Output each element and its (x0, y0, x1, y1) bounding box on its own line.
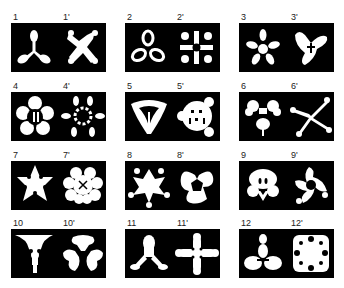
shape-panel (11, 229, 106, 278)
shape-transformed (59, 92, 106, 141)
shape-panel (239, 23, 334, 72)
shape-panel (125, 92, 220, 141)
pair-label-prime: 3' (291, 12, 298, 22)
pair-label-prime: 10' (63, 218, 75, 228)
shape-transformed (287, 92, 334, 141)
shape-original (11, 23, 58, 72)
shape-panel (239, 92, 334, 141)
shape-original (125, 161, 172, 210)
shape-transformed (59, 23, 106, 72)
shape-original (125, 92, 172, 141)
pair-label-prime: 1' (63, 12, 70, 22)
shape-transformed (173, 92, 220, 141)
pair-label-prime: 2' (177, 12, 184, 22)
figure-pair-7: 7 7' (11, 150, 106, 210)
pair-label: 8 (127, 150, 132, 160)
pair-label: 4 (13, 81, 18, 91)
pair-label: 11 (127, 218, 136, 228)
shape-original (11, 229, 58, 278)
pair-label-prime: 8' (177, 150, 184, 160)
figure-pair-4: 4 4' (11, 81, 106, 141)
shape-original (11, 92, 58, 141)
shape-panel (11, 92, 106, 141)
shape-transformed (287, 23, 334, 72)
shape-transformed (173, 161, 220, 210)
pair-label: 10 (13, 218, 23, 228)
pair-label: 5 (127, 81, 132, 91)
pair-label-prime: 7' (63, 150, 70, 160)
shape-panel (11, 161, 106, 210)
figure-pair-8: 8 8' (125, 150, 220, 210)
shape-panel (125, 161, 220, 210)
shape-panel (239, 161, 334, 210)
figure-pair-12: 12 12' (239, 218, 334, 278)
pair-label-prime: 9' (291, 150, 298, 160)
shape-original (239, 161, 286, 210)
figure-pair-5: 5 5' (125, 81, 220, 141)
shape-panel (239, 229, 334, 278)
shape-panel (125, 23, 220, 72)
shape-original (239, 229, 286, 278)
pair-label: 6 (241, 81, 246, 91)
figure-pair-11: 11 11' (125, 218, 220, 278)
shape-transformed (287, 229, 334, 278)
pair-label-prime: 5' (177, 81, 184, 91)
shape-transformed (173, 23, 220, 72)
figure-pair-1: 1 1' (11, 12, 106, 72)
figure-pair-3: 3 3' (239, 12, 334, 72)
pair-label-prime: 4' (63, 81, 70, 91)
shape-transformed (59, 229, 106, 278)
pair-label-prime: 11' (177, 218, 188, 228)
pair-label: 12 (241, 218, 251, 228)
shape-original (11, 161, 58, 210)
pair-label: 3 (241, 12, 246, 22)
figure-pair-6: 6 6' (239, 81, 334, 141)
pair-label: 9 (241, 150, 246, 160)
figure-pair-9: 9 9' (239, 150, 334, 210)
shape-transformed (173, 229, 220, 278)
pair-label: 1 (13, 12, 18, 22)
pair-label-prime: 6' (291, 81, 298, 91)
shape-panel (125, 229, 220, 278)
shape-original (125, 229, 172, 278)
shape-original (125, 23, 172, 72)
shape-original (239, 23, 286, 72)
shape-transformed (287, 161, 334, 210)
pair-label-prime: 12' (291, 218, 303, 228)
figure-pair-2: 2 2' (125, 12, 220, 72)
shape-transformed (59, 161, 106, 210)
pair-label: 7 (13, 150, 18, 160)
figure-pair-10: 10 10' (11, 218, 106, 278)
shape-panel (11, 23, 106, 72)
shape-original (239, 92, 286, 141)
pair-label: 2 (127, 12, 132, 22)
